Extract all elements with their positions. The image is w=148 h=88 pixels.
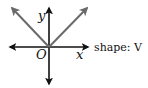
x-axis-label: x: [76, 47, 84, 62]
v-right-arm: [49, 8, 87, 47]
coordinate-diagram: y x O shape: V: [0, 0, 148, 88]
shape-caption: shape: V: [94, 41, 143, 54]
origin-label: O: [36, 47, 47, 62]
y-axis-label: y: [37, 8, 46, 23]
